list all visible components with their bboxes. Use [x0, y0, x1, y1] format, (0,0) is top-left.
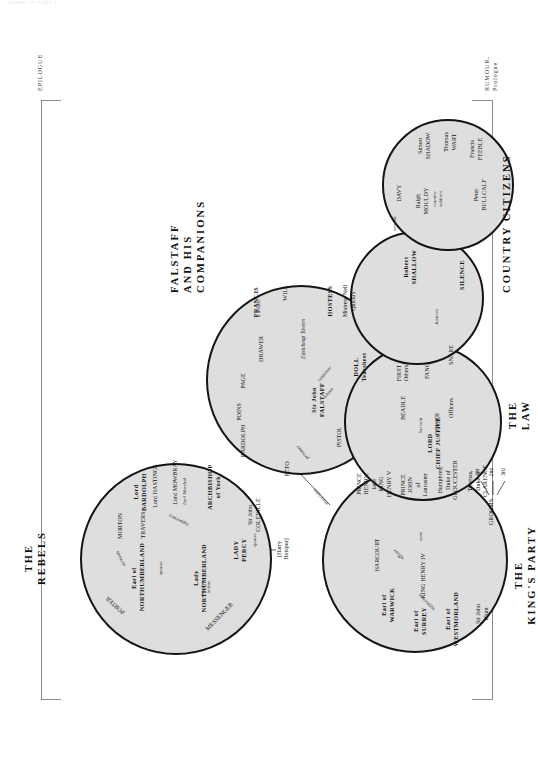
label-earl-westmorland-text: Earl of WESTMORLAND — [445, 592, 458, 647]
label-eastcheap-tavern: Eastcheap Tavern — [300, 319, 306, 359]
label-bullcalf-text: Peter BULLCALF — [473, 179, 486, 211]
label-silence-text: SILENCE — [459, 260, 465, 290]
label-earl-westmorland: Earl of WESTMORLAND — [438, 587, 460, 651]
group-title-rebels: THE REBELS — [22, 523, 48, 593]
bracket-top-tick-left — [41, 699, 61, 700]
label-davy: DAVY — [396, 179, 403, 207]
label-pistol: PISTOL — [336, 419, 343, 455]
label-sir-john-blunt: Sir John Blunt — [468, 591, 490, 637]
label-silence: SILENCE — [452, 253, 467, 297]
label-mowbray-subtitle: Earl Marshal — [182, 478, 187, 505]
label-doll: DOLL Tearsheet — [346, 345, 368, 389]
bracket-top-tick-right — [41, 100, 61, 101]
label-shallow: Robert SHALLOW — [396, 243, 418, 291]
label-harcourt: HARCOURT — [374, 531, 381, 579]
label-morton: MORTON — [117, 505, 124, 547]
label-drawer: DRAWER — [258, 329, 265, 369]
label-beadle: BEADLE — [400, 389, 407, 427]
label-peto: PETO — [284, 453, 291, 485]
label-shadow-text: Simon SHADOW — [417, 133, 430, 160]
group-title-country: COUNTRY CITIZENS — [500, 93, 513, 293]
rel-sons: sons — [418, 532, 423, 541]
label-feeble: Francis FEEBLE — [462, 127, 484, 171]
label-sir-john-blunt-text: Sir John Blunt — [475, 604, 488, 624]
label-mouldy: Ralph MOULDY — [408, 179, 430, 223]
label-officers: Officers — [448, 389, 455, 427]
rel-associates: associates — [312, 487, 329, 506]
label-earl-northumberland: Earl of NORTHUMBERLAND — [124, 545, 146, 611]
label-lady-percy-text: LADY PERCY — [233, 538, 246, 561]
label-coleville-text: Sir John COLEVILLE — [247, 498, 260, 532]
label-francis-subtitle: a drawer — [256, 299, 261, 317]
label-snare: SNARE — [448, 339, 455, 371]
group-title-law: THE LAW — [506, 385, 532, 445]
label-first-others: FIRST Others — [396, 355, 411, 391]
label-lord-bardolph-text: Lord BARDOLPH — [133, 473, 146, 511]
label-page: PAGE — [240, 365, 247, 397]
label-lord-hastings: Lord HASTINGS — [152, 457, 159, 515]
caption-rumour-prologue: RUMOUR, Prologue — [483, 56, 499, 91]
label-wart: Thomas WART — [436, 121, 458, 163]
bracket-bottom-tick-right — [472, 100, 492, 101]
label-hostess-subtitle: Mistress Nell Quickly — [342, 285, 355, 318]
label-groom-3rd: 3rd — [500, 463, 507, 481]
label-hostess: HOSTESS Mistress Nell Quickly — [320, 271, 357, 331]
label-prince-henry: PRINCE HENRY, later KING HENRY V — [356, 463, 393, 505]
rel-country-soldiers: country soldiers — [432, 191, 445, 207]
label-hostess-text: HOSTESS — [327, 286, 333, 317]
group-title-falstaff: FALSTAFF AND HIS COMPANIONS — [168, 185, 207, 293]
label-poins: POINS — [236, 395, 243, 429]
label-mouldy-text: Ralph MOULDY — [415, 188, 428, 215]
label-falstaff: Sir John FALSTAFF — [304, 373, 326, 427]
label-lord-mowbray: Lord MOWBRAY — [172, 453, 179, 511]
label-bullcalf: Peter BULLCALF — [466, 171, 488, 219]
label-earl-northumberland-text: Earl of NORTHUMBERLAND — [131, 543, 144, 611]
label-coleville: Sir John COLEVILLE — [240, 489, 262, 541]
label-doll-text: DOLL Tearsheet — [353, 352, 366, 381]
bracket-bottom-tick-left — [472, 699, 492, 700]
caption-epilogue: EPILOGUE — [36, 54, 43, 91]
label-earl-warwick: Earl of WARWICK — [374, 581, 396, 629]
label-shadow: Simon SHADOW — [410, 123, 432, 169]
label-earl-warwick-text: Earl of WARWICK — [381, 588, 394, 623]
label-lord-bardolph: Lord BARDOLPH — [126, 469, 148, 515]
label-hotspur: [Harry Hotspur] — [276, 523, 291, 575]
rel-justices: Justices — [434, 309, 439, 325]
label-archbishop-text: ARCHBISHOP of York — [207, 464, 220, 509]
label-will: WILL — [282, 279, 289, 307]
label-gower: GOWER — [434, 407, 441, 441]
label-shallow-text: Robert SHALLOW — [403, 250, 416, 285]
group-title-kings-party: THE KING'S PARTY — [512, 515, 538, 635]
label-earl-surrey: Earl of SURREY — [406, 599, 428, 643]
label-wart-text: Thomas WART — [443, 132, 456, 152]
label-earl-surrey-text: Earl of SURREY — [413, 607, 426, 635]
label-fang: FANG — [424, 357, 431, 385]
label-feeble-text: Francis FEEBLE — [469, 138, 482, 160]
label-archbishop: ARCHBISHOP of York — [200, 459, 222, 515]
rel-spouse-northumberland: spouse — [158, 561, 163, 575]
label-groom-2nd: 2nd — [488, 463, 495, 481]
bracket-top-rule — [41, 100, 42, 700]
label-grooms: GROOMS — [488, 491, 495, 533]
label-law-servant: Servant — [418, 418, 423, 433]
label-falstaff-text: Sir John FALSTAFF — [311, 383, 324, 417]
rel-servant-davy: servant — [392, 216, 397, 231]
label-groom-1st: 1st — [474, 463, 481, 481]
rel-daughter-in-law: daughter- in-law — [200, 577, 213, 597]
